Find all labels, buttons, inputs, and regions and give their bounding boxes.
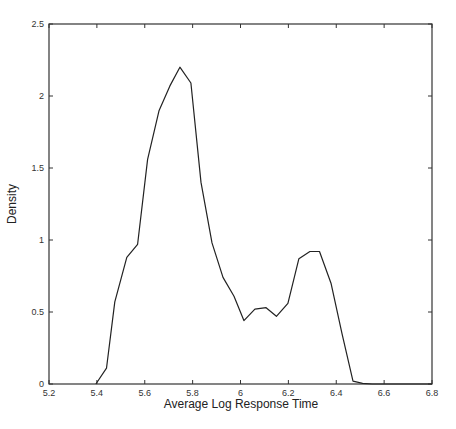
axis-ticks — [49, 24, 432, 384]
x-tick-label: 5.2 — [43, 388, 56, 398]
x-tick-label: 6.8 — [426, 388, 439, 398]
y-axis-title: Density — [5, 184, 19, 224]
x-tick-label: 6.4 — [330, 388, 343, 398]
y-tick-label: 0.5 — [31, 307, 44, 317]
x-tick-label: 6.6 — [378, 388, 391, 398]
x-axis-title: Average Log Response Time — [164, 397, 319, 411]
plot-border — [49, 24, 432, 384]
plot-frame — [49, 24, 432, 384]
y-tick-label: 2 — [39, 91, 44, 101]
x-tick-label: 5.6 — [138, 388, 151, 398]
density-chart: 5.25.45.65.866.26.46.66.8 00.511.522.5 A… — [0, 0, 456, 429]
y-tick-label: 2.5 — [31, 19, 44, 29]
y-tick-label: 0 — [39, 379, 44, 389]
x-tick-label: 5.4 — [91, 388, 104, 398]
y-tick-label: 1 — [39, 235, 44, 245]
density-curve — [96, 67, 432, 384]
y-tick-label: 1.5 — [31, 163, 44, 173]
y-axis-tick-labels: 00.511.522.5 — [31, 19, 44, 389]
